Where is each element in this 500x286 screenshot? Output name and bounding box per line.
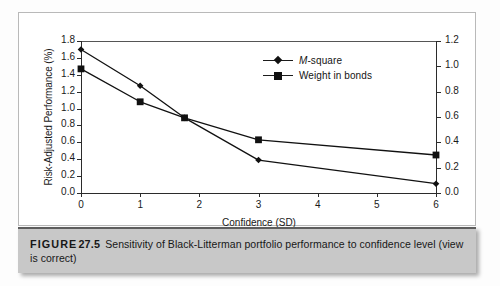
figure-caption-band: FIGURE27.5Sensitivity of Black-Litterman… xyxy=(18,227,476,273)
right-tick-label: 0.8 xyxy=(445,85,459,96)
data-point-diamond xyxy=(433,180,440,187)
x-tick-label: 5 xyxy=(357,199,397,210)
legend-item-weight-in-bonds[interactable]: Weight in bonds xyxy=(263,68,372,83)
left-tick-label: 1.4 xyxy=(61,68,75,79)
data-point-square xyxy=(255,136,262,143)
legend-label-weight-in-bonds: Weight in bonds xyxy=(299,70,372,81)
x-tick-label: 6 xyxy=(416,199,456,210)
right-tick-label: 1.0 xyxy=(445,59,459,70)
right-tick-label: 1.2 xyxy=(445,34,459,45)
left-tick-label: 0.2 xyxy=(61,169,75,180)
square-marker-icon xyxy=(263,70,293,82)
legend-label-m-square: M-square xyxy=(299,55,342,66)
legend: M-square Weight in bonds xyxy=(263,53,372,83)
figure-plate: Risk-Adjusted Performance (%) 0.00.20.40… xyxy=(18,12,478,272)
data-point-square xyxy=(181,114,188,121)
x-tick-label: 1 xyxy=(120,199,160,210)
left-tick-label: 0.4 xyxy=(61,152,75,163)
caption-figure-number: 27.5 xyxy=(78,238,100,250)
left-tick-label: 0.8 xyxy=(61,118,75,129)
data-point-diamond xyxy=(255,157,262,164)
data-point-square xyxy=(78,65,85,72)
x-tick-label: 4 xyxy=(298,199,338,210)
data-point-square xyxy=(433,152,440,159)
figure-caption: FIGURE27.5Sensitivity of Black-Litterman… xyxy=(30,237,466,265)
left-tick-label: 1.0 xyxy=(61,102,75,113)
left-tick-label: 1.8 xyxy=(61,34,75,45)
data-point-diamond xyxy=(78,46,85,53)
diamond-marker-icon xyxy=(263,55,293,67)
left-tick-label: 0.0 xyxy=(61,186,75,197)
right-tick-label: 0.0 xyxy=(445,186,459,197)
left-tick-label: 0.6 xyxy=(61,135,75,146)
chart-frame: Risk-Adjusted Performance (%) 0.00.20.40… xyxy=(18,12,476,226)
data-point-square xyxy=(137,98,144,105)
x-tick-label: 0 xyxy=(61,199,101,210)
figure-container: Risk-Adjusted Performance (%) 0.00.20.40… xyxy=(0,0,500,286)
series-layer xyxy=(81,41,437,194)
legend-item-m-square[interactable]: M-square xyxy=(263,53,372,68)
x-tick-label: 2 xyxy=(179,199,219,210)
caption-figure-word: FIGURE xyxy=(30,238,77,250)
plot-area: Risk-Adjusted Performance (%) 0.00.20.40… xyxy=(81,41,436,193)
right-tick-label: 0.4 xyxy=(445,135,459,146)
right-tick-label: 0.2 xyxy=(445,161,459,172)
left-tick-label: 1.2 xyxy=(61,85,75,96)
x-tick-label: 3 xyxy=(239,199,279,210)
series-line-1 xyxy=(81,49,436,183)
y-axis-label: Risk-Adjusted Performance (%) xyxy=(43,41,57,193)
right-tick-label: 0.6 xyxy=(445,110,459,121)
left-tick-label: 1.6 xyxy=(61,51,75,62)
